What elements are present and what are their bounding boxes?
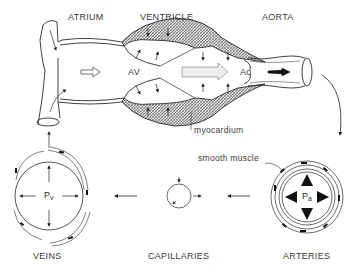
label-myocardium: myocardium <box>194 125 243 135</box>
label-venous-pressure: Pv <box>44 190 54 201</box>
label-smooth-muscle: smooth muscle <box>198 153 259 163</box>
label-av-valve: AV <box>128 67 140 77</box>
atrium-shape <box>37 21 124 126</box>
flow-arrow-atrium <box>81 67 100 77</box>
label-arteries: ARTERIES <box>283 251 330 261</box>
label-ventricle: VENTRICLE <box>140 12 193 22</box>
label-aortic-valve: Ao <box>240 67 252 77</box>
capillary-cross-section <box>167 177 201 208</box>
flow-arrow-ventricle <box>182 63 228 80</box>
label-veins: VEINS <box>33 251 62 261</box>
flow-arrow-to-arteries <box>322 75 341 135</box>
label-arterial-pressure: Pa <box>302 191 312 202</box>
pressure-subscript: v <box>50 194 54 201</box>
smooth-muscle-leader <box>265 163 283 172</box>
diagram-canvas <box>0 0 354 268</box>
pressure-subscript: a <box>308 195 312 202</box>
flow-arrow-aorta <box>268 68 290 76</box>
pressure-arrows-veins <box>20 132 78 226</box>
label-capillaries: CAPILLARIES <box>148 251 209 261</box>
label-atrium: ATRIUM <box>68 12 104 22</box>
label-aorta: AORTA <box>262 12 294 22</box>
